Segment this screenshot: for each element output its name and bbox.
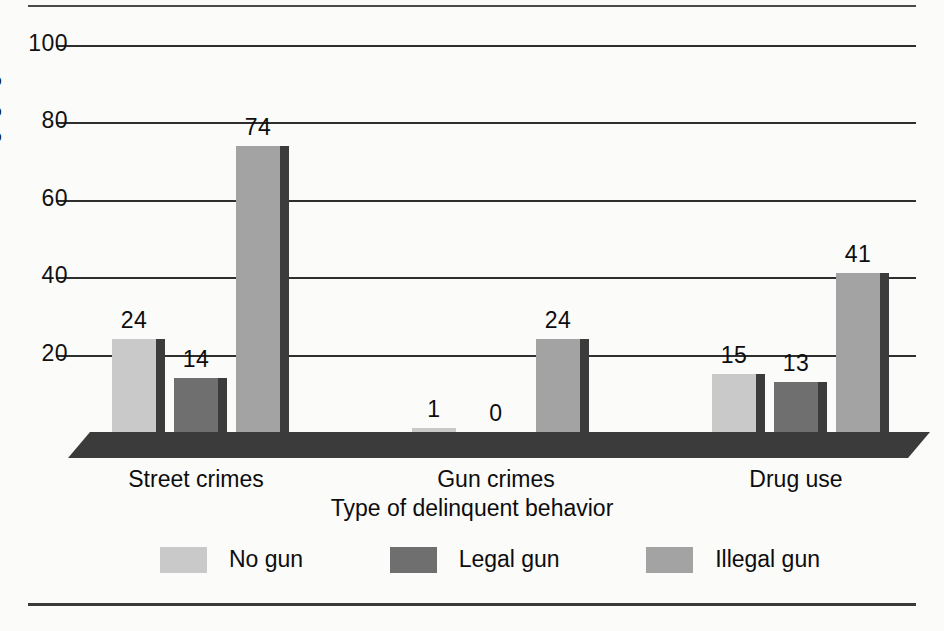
legend-label: Illegal gun bbox=[715, 546, 820, 573]
bar[interactable] bbox=[174, 378, 218, 432]
x-axis-title: Type of delinquent behavior bbox=[0, 495, 944, 522]
figure-top-rule bbox=[28, 5, 916, 7]
bar[interactable] bbox=[836, 273, 880, 432]
gridline-100 bbox=[78, 45, 916, 47]
axis-platform bbox=[68, 432, 930, 458]
bar-side-shadow bbox=[756, 374, 765, 436]
bar[interactable] bbox=[712, 374, 756, 432]
bar-value-label: 14 bbox=[156, 346, 236, 373]
bar-face bbox=[174, 378, 218, 432]
bar-face bbox=[236, 146, 280, 432]
legend-swatch bbox=[646, 547, 693, 573]
legend-item[interactable]: Illegal gun bbox=[646, 546, 820, 573]
bar-value-label: 41 bbox=[818, 241, 898, 268]
legend-label: No gun bbox=[229, 546, 303, 573]
bar-side-shadow bbox=[818, 382, 827, 436]
bar-face bbox=[112, 339, 156, 432]
category-label: Gun crimes bbox=[366, 466, 626, 493]
legend-swatch bbox=[390, 547, 437, 573]
gridline-40 bbox=[78, 277, 916, 279]
y-tick-label-60: 60 bbox=[8, 185, 68, 212]
plot-area: 2414741024151341 bbox=[78, 38, 916, 438]
bar-value-label: 24 bbox=[518, 307, 598, 334]
figure-bottom-rule bbox=[28, 603, 916, 606]
y-tick-label-100: 100 bbox=[8, 30, 68, 57]
bar-value-label: 24 bbox=[94, 307, 174, 334]
legend-item[interactable]: No gun bbox=[160, 546, 303, 573]
bar-side-shadow bbox=[218, 378, 227, 436]
bar[interactable] bbox=[536, 339, 580, 432]
bar-side-shadow bbox=[880, 273, 889, 436]
legend-item[interactable]: Legal gun bbox=[390, 546, 560, 573]
bar-value-label: 13 bbox=[756, 350, 836, 377]
bar-face bbox=[536, 339, 580, 432]
bar[interactable] bbox=[236, 146, 280, 432]
y-axis-title: Percent engaging in behavior bbox=[0, 0, 2, 270]
legend-swatch bbox=[160, 547, 207, 573]
bar-value-label: 0 bbox=[456, 400, 536, 427]
bar-face bbox=[712, 374, 756, 432]
category-label: Drug use bbox=[666, 466, 926, 493]
y-tick-label-40: 40 bbox=[8, 262, 68, 289]
bar-face bbox=[836, 273, 880, 432]
bar[interactable] bbox=[112, 339, 156, 432]
chart-figure: Percent engaging in behavior 24147410241… bbox=[0, 0, 944, 631]
legend-label: Legal gun bbox=[459, 546, 560, 573]
chart-legend: No gunLegal gunIllegal gun bbox=[160, 546, 820, 573]
bar-side-shadow bbox=[580, 339, 589, 436]
y-tick-label-20: 20 bbox=[8, 340, 68, 367]
gridline-80 bbox=[78, 122, 916, 124]
y-tick-label-80: 80 bbox=[8, 107, 68, 134]
bar[interactable] bbox=[774, 382, 818, 432]
bar-value-label: 74 bbox=[218, 114, 298, 141]
category-label: Street crimes bbox=[66, 466, 326, 493]
bar-side-shadow bbox=[280, 146, 289, 436]
bar-face bbox=[774, 382, 818, 432]
gridline-60 bbox=[78, 200, 916, 202]
